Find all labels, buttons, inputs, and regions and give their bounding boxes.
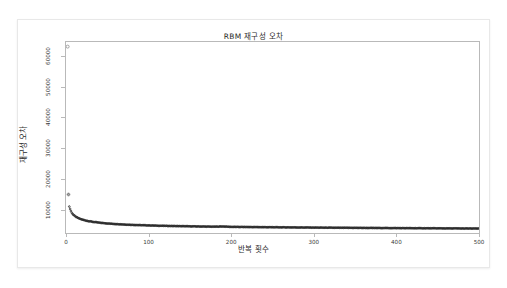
y-tick-label: 60000 (39, 47, 57, 65)
x-tick-label: 0 (54, 239, 78, 245)
figure-card: RBM 재구성 오차 재구성 오차 반복 횟수 1000020000300004… (17, 19, 490, 268)
x-axis-label-text: 반복 횟수 (238, 245, 268, 254)
plot-area (65, 41, 480, 234)
y-tick-label: 10000 (39, 201, 57, 219)
plot-series-svg (66, 42, 479, 233)
x-tick-label: 300 (302, 239, 326, 245)
y-tick-label: 40000 (39, 108, 57, 126)
screenshot-root: RBM 재구성 오차 재구성 오차 반복 횟수 1000020000300004… (0, 0, 507, 288)
x-tick-label: 100 (137, 239, 161, 245)
y-axis-label-text: 재구성 오차 (18, 126, 29, 163)
data-point (68, 194, 70, 196)
data-point (68, 206, 70, 208)
data-point-outlier-initial (66, 45, 69, 48)
x-axis-label: 반복 횟수 (18, 243, 489, 254)
data-point (69, 208, 71, 210)
y-tick-label: 50000 (39, 78, 57, 96)
chart-title: RBM 재구성 오차 (18, 30, 489, 41)
y-tick-label: 20000 (39, 170, 57, 188)
x-tick-label: 200 (219, 239, 243, 245)
x-tick-label: 500 (467, 239, 491, 245)
x-tick-label: 400 (384, 239, 408, 245)
y-tick-label: 30000 (39, 139, 57, 157)
y-axis-label: 재구성 오차 (14, 20, 32, 269)
